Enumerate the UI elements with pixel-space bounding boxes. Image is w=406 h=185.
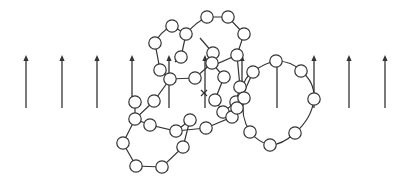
bead-circle-icon [209,94,221,106]
bead-circle-icon [180,28,192,40]
bead-circle-icon [184,114,196,126]
bead-circle-icon [295,65,307,77]
field-arrow-icon [59,55,64,108]
bead-circle-icon [218,71,230,83]
center-x-mark [201,90,207,96]
bead-circle-icon [164,73,176,85]
bead-circle-icon [264,139,276,151]
bead-circle-icon [149,37,161,49]
bead-circle-icon [170,125,182,137]
bead-circle-icon [238,92,250,104]
polymer-chains [117,11,320,173]
beads-upper-right-loop [201,11,250,61]
bead-circle-icon [222,11,234,23]
bead-circle-icon [175,51,187,63]
bead-circle-icon [289,127,301,139]
bead-circle-icon [154,64,166,76]
beads-right-loop [238,55,320,151]
bead-circle-icon [130,160,142,172]
bead-circle-icon [148,95,160,107]
bead-circle-icon [238,28,250,40]
bead-circle-icon [244,126,256,138]
bead-circle-icon [189,72,201,84]
bead-circle-icon [231,49,243,61]
bead-circle-icon [270,55,282,67]
field-arrow-icon [346,55,351,108]
bead-circle-icon [129,96,141,108]
bead-circle-icon [166,20,178,32]
bead-circle-icon [308,93,320,105]
bead-circle-icon [117,137,129,149]
bead-circle-icon [200,122,212,134]
bead-circle-icon [201,11,213,23]
diagram-canvas [0,0,406,185]
field-arrow-icon [23,55,28,108]
bead-circle-icon [144,119,156,131]
field-arrow-icon [94,55,99,108]
bead-circle-icon [247,66,259,78]
bead-circle-icon [129,113,141,125]
beads-upper-left-loop [149,20,192,76]
bead-circle-icon [156,161,168,173]
bead-circle-icon [206,57,218,69]
bead-circle-icon [177,141,189,153]
field-arrow-icon [382,55,387,108]
polymer-field-diagram [0,0,406,185]
